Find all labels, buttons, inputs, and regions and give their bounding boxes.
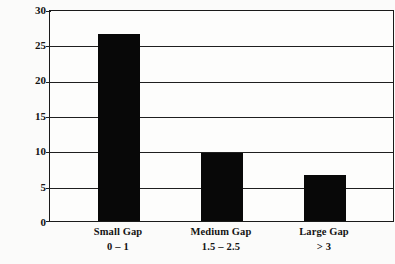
x-label-large-gap-range: > 3 [274,239,374,254]
x-label-medium-gap-range: 1.5 – 2.5 [171,239,271,254]
x-label-large-gap-name: Large Gap [274,224,374,239]
tickmark-20 [46,82,51,83]
x-label-large-gap: Large Gap > 3 [274,224,374,254]
tickmark-25 [46,46,51,47]
tickmark-0 [46,221,51,222]
bar-large-gap [304,175,346,221]
x-axis-category-labels: Small Gap 0 – 1 Medium Gap 1.5 – 2.5 Lar… [49,224,394,264]
y-tick-label-10: 10 [18,146,46,157]
x-label-small-gap: Small Gap 0 – 1 [68,224,168,254]
y-tick-label-15: 15 [18,111,46,122]
y-tick-label-0: 0 [18,217,46,228]
bar-small-gap [98,34,140,221]
y-tick-label-30: 30 [18,5,46,16]
y-tick-label-20: 20 [18,75,46,86]
y-axis-tick-labels: 30 25 20 15 10 5 0 [18,0,46,264]
y-tick-label-25: 25 [18,40,46,51]
bar-medium-gap [201,153,243,221]
tickmark-30 [46,11,51,12]
x-label-small-gap-range: 0 – 1 [68,239,168,254]
bar-chart-figure: Return on Equity (%) 30 25 20 15 10 5 0 … [0,0,395,264]
x-label-medium-gap: Medium Gap 1.5 – 2.5 [171,224,271,254]
plot-area [49,10,394,222]
x-label-medium-gap-name: Medium Gap [171,224,271,239]
y-tick-label-5: 5 [18,182,46,193]
tickmark-5 [46,188,51,189]
tickmark-10 [46,152,51,153]
x-label-small-gap-name: Small Gap [68,224,168,239]
tickmark-15 [46,117,51,118]
